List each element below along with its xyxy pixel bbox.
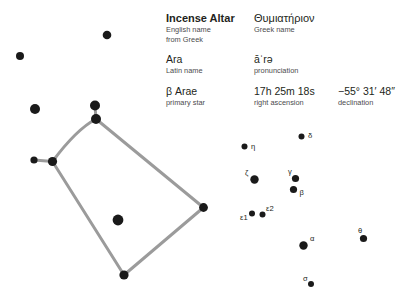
star-gamma-label: γ [288, 167, 292, 176]
star-eps1-label: ε1 [240, 213, 248, 222]
star-upper-left-b [103, 31, 112, 40]
star-sigma-label: σ [303, 274, 308, 283]
star-eps1 [249, 211, 255, 217]
star-zeta [250, 175, 258, 183]
star-theta [360, 235, 367, 242]
star-label-group: δηζγβε1ε2αθσ [240, 131, 362, 284]
star-beta [290, 186, 297, 193]
star-delta-label: δ [308, 131, 312, 140]
star-eta [242, 144, 248, 150]
star-upper-left-a [16, 52, 24, 60]
star-eps2-label: ε2 [266, 204, 274, 213]
constellation-line-group [34, 106, 204, 275]
constellation-star-map: δηζγβε1ε2αθσ [0, 0, 416, 308]
star-left-small [30, 156, 37, 163]
star-apex-top [90, 101, 100, 111]
star-bottom-vertex [119, 270, 128, 279]
star-alpha-label: α [310, 234, 315, 243]
star-mid-left [30, 104, 40, 114]
star-right-vertex [199, 203, 208, 212]
star-theta-label: θ [358, 226, 362, 235]
star-apex-vertex [91, 114, 101, 124]
star-alpha [299, 241, 307, 249]
star-eps2 [260, 212, 266, 218]
star-sigma [308, 281, 314, 287]
star-left-vertex [48, 157, 57, 166]
star-zeta-label: ζ [245, 168, 249, 177]
constellation-outline-path [53, 119, 204, 275]
star-gamma [292, 175, 299, 182]
star-eta-label: η [251, 142, 255, 151]
star-delta [299, 134, 305, 140]
star-beta-label: β [300, 188, 305, 197]
star-interior [113, 215, 124, 226]
star-group [16, 31, 367, 287]
